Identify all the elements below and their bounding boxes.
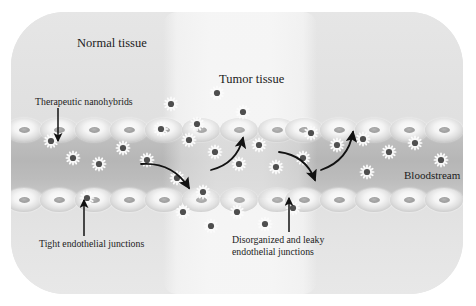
endothelial-cell-nucleus bbox=[234, 127, 245, 133]
therapeutic-nanohybrid bbox=[196, 185, 210, 199]
endothelial-cell-nucleus bbox=[369, 197, 380, 203]
therapeutic-nanohybrid bbox=[330, 138, 344, 152]
endothelial-cell bbox=[390, 188, 428, 212]
therapeutic-nanohybrid bbox=[66, 151, 80, 165]
diagram-panel: Normal tissue Tumor tissue Therapeutic n… bbox=[11, 12, 463, 294]
therapeutic-nanohybrid bbox=[230, 205, 244, 219]
therapeutic-nanohybrid bbox=[210, 86, 224, 100]
therapeutic-nanohybrid bbox=[232, 157, 246, 171]
label-disorganized-line2: endothelial junctions bbox=[232, 246, 324, 258]
therapeutic-nanohybrid bbox=[44, 134, 58, 148]
therapeutic-nanohybrid bbox=[360, 165, 374, 179]
therapeutic-nanohybrid bbox=[208, 145, 222, 159]
label-tight-endothelial-junctions: Tight endothelial junctions bbox=[39, 238, 144, 250]
endothelial-cell bbox=[355, 188, 393, 212]
therapeutic-nanohybrid bbox=[164, 97, 178, 111]
endothelial-cell-nucleus bbox=[272, 197, 283, 203]
endothelial-cell-nucleus bbox=[334, 197, 345, 203]
label-normal-tissue: Normal tissue bbox=[77, 36, 147, 51]
therapeutic-nanohybrid bbox=[252, 138, 266, 152]
endothelial-cell-nucleus bbox=[299, 197, 310, 203]
endothelial-cell bbox=[40, 188, 78, 212]
endothelial-cell-nucleus bbox=[89, 127, 100, 133]
label-tumor-tissue: Tumor tissue bbox=[219, 72, 284, 87]
therapeutic-nanohybrid bbox=[116, 141, 130, 155]
endothelial-cell bbox=[425, 118, 463, 142]
endothelial-cell bbox=[11, 188, 43, 212]
therapeutic-nanohybrid bbox=[356, 132, 370, 146]
endothelial-cell-nucleus bbox=[369, 127, 380, 133]
endothelial-cell-nucleus bbox=[439, 197, 450, 203]
therapeutic-nanohybrid bbox=[434, 153, 448, 167]
endothelial-cell bbox=[425, 188, 463, 212]
therapeutic-nanohybrid bbox=[140, 153, 154, 167]
endothelial-cell-row-top bbox=[11, 118, 463, 142]
epr-effect-figure: Normal tissue Tumor tissue Therapeutic n… bbox=[0, 0, 476, 306]
therapeutic-nanohybrid bbox=[182, 133, 196, 147]
endothelial-cell-nucleus bbox=[334, 127, 345, 133]
endothelial-cell bbox=[110, 118, 148, 142]
endothelial-cell-nucleus bbox=[159, 197, 170, 203]
therapeutic-nanohybrid bbox=[190, 117, 204, 131]
endothelial-cell bbox=[320, 188, 358, 212]
endothelial-cell-nucleus bbox=[124, 197, 135, 203]
endothelial-cell-nucleus bbox=[272, 127, 283, 133]
endothelial-cell-nucleus bbox=[234, 197, 245, 203]
label-disorganized-line1: Disorganized and leaky bbox=[232, 234, 324, 246]
label-disorganized-leaky-junctions: Disorganized and leaky endothelial junct… bbox=[232, 234, 324, 257]
therapeutic-nanohybrid bbox=[286, 201, 300, 215]
endothelial-cell-nucleus bbox=[54, 197, 65, 203]
therapeutic-nanohybrid bbox=[80, 191, 94, 205]
label-bloodstream: Bloodstream bbox=[404, 169, 460, 182]
endothelial-cell-nucleus bbox=[124, 127, 135, 133]
therapeutic-nanohybrid bbox=[154, 122, 168, 136]
endothelial-cell bbox=[11, 118, 43, 142]
therapeutic-nanohybrid bbox=[296, 151, 310, 165]
therapeutic-nanohybrid bbox=[170, 171, 184, 185]
therapeutic-nanohybrid bbox=[382, 145, 396, 159]
therapeutic-nanohybrid bbox=[176, 205, 190, 219]
therapeutic-nanohybrid bbox=[304, 126, 318, 140]
endothelial-cell-nucleus bbox=[19, 127, 30, 133]
therapeutic-nanohybrid bbox=[258, 217, 272, 231]
endothelial-cell-nucleus bbox=[439, 127, 450, 133]
label-therapeutic-nanohybrids: Therapeutic nanohybrids bbox=[35, 96, 133, 108]
endothelial-cell-nucleus bbox=[404, 127, 415, 133]
therapeutic-nanohybrid bbox=[269, 160, 283, 174]
endothelial-cell bbox=[110, 188, 148, 212]
therapeutic-nanohybrid bbox=[92, 157, 106, 171]
therapeutic-nanohybrid bbox=[408, 136, 422, 150]
endothelial-cell-nucleus bbox=[404, 197, 415, 203]
endothelial-cell-nucleus bbox=[19, 197, 30, 203]
endothelial-cell-nucleus bbox=[54, 127, 65, 133]
endothelial-cell bbox=[75, 118, 113, 142]
therapeutic-nanohybrid bbox=[204, 219, 218, 233]
therapeutic-nanohybrid bbox=[236, 105, 250, 119]
